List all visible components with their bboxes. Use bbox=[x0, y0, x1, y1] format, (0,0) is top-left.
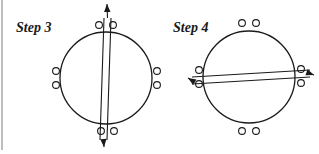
hole-circle bbox=[253, 20, 260, 27]
hole-circle bbox=[154, 82, 161, 89]
hole-circle bbox=[239, 20, 246, 27]
step-4-label: Step 4 bbox=[173, 21, 208, 35]
rim-circle bbox=[203, 31, 295, 123]
strap-line bbox=[107, 18, 111, 140]
hole-circle bbox=[53, 82, 60, 89]
rim-circle bbox=[60, 32, 152, 124]
arrow-end-icon bbox=[100, 139, 106, 147]
step-4-diagram bbox=[188, 20, 314, 135]
hole-circle bbox=[53, 68, 60, 75]
step-3-label: Step 3 bbox=[16, 21, 51, 35]
hole-circle bbox=[154, 68, 161, 75]
step-3-diagram bbox=[53, 4, 161, 147]
hole-circle bbox=[298, 66, 305, 73]
strap-line bbox=[192, 77, 310, 84]
hole-circle bbox=[196, 67, 203, 74]
arrow-start-icon bbox=[104, 4, 110, 12]
strap-line bbox=[100, 18, 104, 140]
hole-circle bbox=[253, 128, 260, 135]
hole-circle bbox=[239, 128, 246, 135]
hole-circle bbox=[111, 128, 118, 135]
hole-circle bbox=[98, 128, 105, 135]
strap-line bbox=[192, 70, 310, 77]
hole-circle bbox=[298, 80, 305, 87]
hole-circle bbox=[96, 22, 103, 29]
diagram-stage: Step 3 Step 4 bbox=[0, 0, 319, 154]
